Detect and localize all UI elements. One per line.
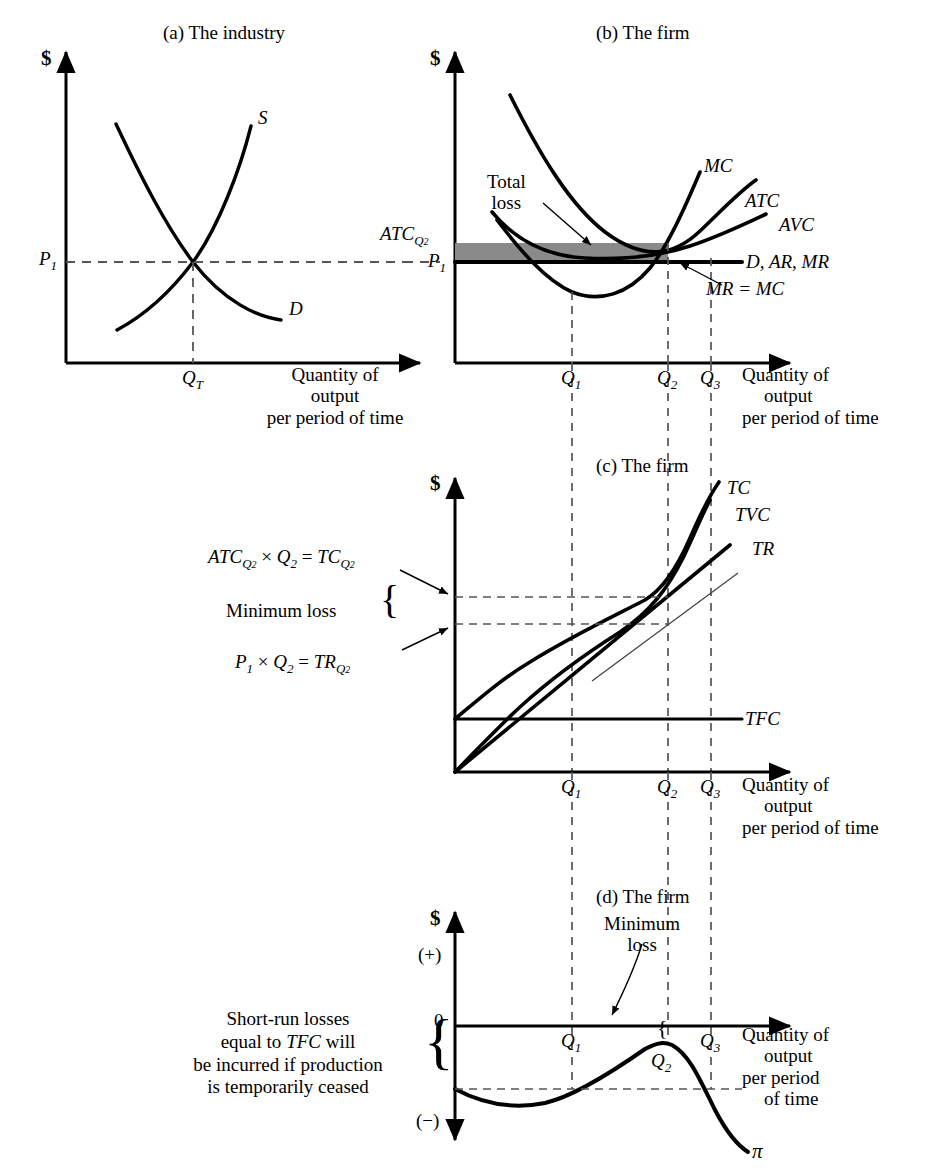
tvc-curve-label: TVC <box>735 504 770 525</box>
panel-c-dollar-axis-label: $ <box>430 472 441 496</box>
panel-b-q2-label: Q2 <box>657 367 677 392</box>
panel-b-q1-label: Q1 <box>561 367 581 392</box>
panel-d-negative-label: (−) <box>416 1110 439 1131</box>
tc-curve-label: TC <box>727 477 750 498</box>
panel-d-dollar-axis-label: $ <box>430 907 441 931</box>
profit-curve-label: π <box>752 1140 763 1164</box>
atc-curve-label: ATC <box>745 190 779 211</box>
panel-a-price-label: P1 <box>39 248 57 273</box>
minimum-loss-brace-d: { <box>657 1016 668 1041</box>
total-loss-pointer <box>543 203 591 245</box>
demand-curve-a <box>116 124 281 320</box>
panel-c-pointers <box>400 570 448 650</box>
tr-curve <box>455 545 730 772</box>
panel-c-q1-label: Q1 <box>561 776 581 801</box>
tc-q2-annotation: ATCQ2 × Q2 = TCQ2 <box>208 546 355 571</box>
panel-d-title: (d) The firm <box>596 886 690 907</box>
panel-d-q3-label: Q3 <box>700 1030 720 1055</box>
panel-a-curves <box>116 124 281 330</box>
tc-annotation-pointer <box>400 570 448 594</box>
atc-q2-level-label: ATCQ2 <box>380 223 429 248</box>
panel-a-title: (a) The industry <box>163 22 285 43</box>
figure-svg <box>0 0 932 1174</box>
supply-curve-label-a: S <box>258 107 268 128</box>
panel-b-q3-label: Q3 <box>700 367 720 392</box>
minimum-loss-label-c: Minimum loss <box>226 600 336 621</box>
avc-curve-label: AVC <box>779 214 814 235</box>
d-ar-mr-label: D, AR, MR <box>746 251 829 272</box>
tc-curve <box>455 482 719 719</box>
mc-curve-label: MC <box>704 155 733 176</box>
panel-d-x-axis-label: Quantity of output per period of time <box>742 1024 932 1109</box>
shutdown-note: Short-run losses equal to TFC will be in… <box>148 1008 428 1099</box>
panel-d-q1-label: Q1 <box>561 1030 581 1055</box>
panel-b-x-axis-label: Quantity of output per period of time <box>742 364 932 428</box>
panel-a-dollar-axis-label: $ <box>41 47 52 71</box>
panel-c-title: (c) The firm <box>596 455 689 476</box>
minimum-loss-brace-c: { <box>380 578 399 623</box>
panel-b-title: (b) The firm <box>596 22 690 43</box>
tr-annotation-pointer <box>402 628 448 650</box>
mr-equals-mc-label: MR = MC <box>706 278 784 299</box>
tr-curve-label: TR <box>752 538 774 559</box>
panel-c-x-axis-label: Quantity of output per period of time <box>742 774 932 838</box>
tfc-curve-label: TFC <box>745 708 780 729</box>
panel-c-curves <box>455 482 742 772</box>
shutdown-note-brace: { <box>424 1012 454 1071</box>
total-loss-shading <box>455 243 668 262</box>
profit-curve <box>455 1043 748 1152</box>
total-loss-label: Total loss <box>487 172 526 214</box>
panel-c-q2-label: Q2 <box>657 776 677 801</box>
panel-d-positive-label: (+) <box>418 944 441 965</box>
panel-b-dollar-axis-label: $ <box>430 47 441 71</box>
figure-container: (a) The industry $ P1 QT S D Quantity of… <box>0 0 932 1174</box>
shutdown-note-line2: equal to TFC will <box>148 1031 428 1054</box>
panel-a-x-axis-label: Quantity of output per period of time <box>240 364 430 428</box>
tr-q2-annotation: TFC P1 × Q2 = TRQ2 <box>235 651 350 676</box>
minimum-loss-label-d: Minimum loss <box>604 914 680 956</box>
panel-d-curves <box>455 1043 748 1152</box>
panel-c-q3-label: Q3 <box>700 776 720 801</box>
panel-a-quantity-label: QT <box>182 367 203 392</box>
panel-b-price-label: P1 <box>428 250 446 275</box>
connector-lines-bc <box>572 363 711 772</box>
panel-d-q2-label: Q2 <box>651 1050 671 1075</box>
panel-a-axes <box>66 52 420 363</box>
demand-curve-label-a: D <box>289 298 303 319</box>
tvc-curve <box>455 500 710 772</box>
mc-curve <box>497 172 700 297</box>
panel-a-guides <box>66 262 404 363</box>
